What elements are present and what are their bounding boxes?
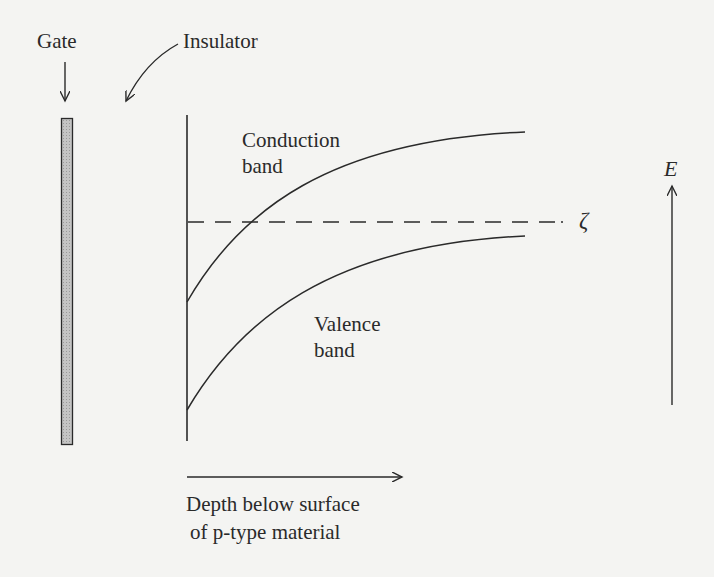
insulator-pointer-arrow (126, 44, 178, 101)
valence-band-label-line1: Valence (314, 311, 380, 338)
gate-electrode (62, 119, 73, 445)
energy-axis-label: E (664, 155, 677, 182)
conduction-band-label-line1: Conduction (242, 127, 340, 154)
insulator-label: Insulator (183, 28, 258, 55)
conduction-band-curve (187, 132, 525, 302)
depth-label-line2: of p-type material (190, 519, 340, 546)
fermi-level-label: ζ (579, 207, 588, 234)
conduction-band-label-line2: band (242, 153, 283, 180)
depth-label-line1: Depth below surface (186, 491, 360, 518)
gate-label: Gate (37, 28, 77, 55)
valence-band-label-line2: band (314, 337, 355, 364)
fermi-level-dot (561, 221, 563, 223)
